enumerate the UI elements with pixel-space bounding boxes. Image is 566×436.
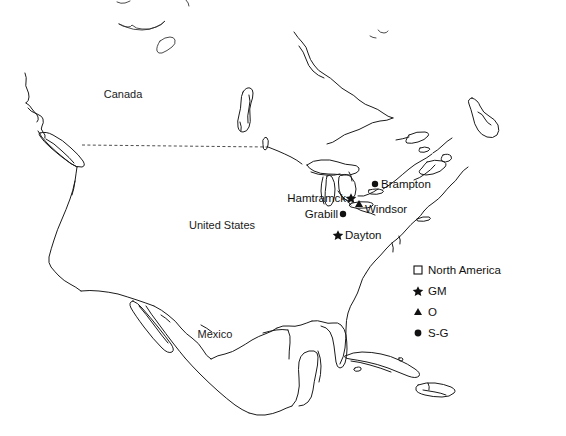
puget-sound-coast (38, 131, 77, 167)
legend-symbol-gm (413, 286, 424, 296)
city-label-hamtramck: Hamtramck (287, 192, 346, 204)
alaska-coast (25, 73, 29, 103)
vancouver-island (39, 132, 84, 167)
arctic-island-baffin-edge (370, 36, 376, 38)
city-label-dayton: Dayton (345, 229, 381, 241)
mexico-gulf-coast (263, 330, 288, 334)
bahamas-small (399, 358, 403, 361)
city-label-brampton: Brampton (381, 178, 431, 190)
mexico-pacific-coast (185, 358, 249, 413)
ontario-peninsula-south (358, 189, 378, 196)
cuba (345, 352, 420, 378)
florida-atlantic-side (340, 273, 366, 364)
legend-symbol-s-g (415, 330, 422, 337)
region-label-canada: Canada (104, 88, 143, 100)
arctic-island-victoria (119, 21, 165, 30)
legend-symbol-north-america (414, 266, 422, 274)
us-canada-east-boundary (268, 147, 302, 164)
legend-label-s-g: S-G (428, 327, 449, 339)
arctic-islands-group (117, 0, 388, 53)
legend-label-o: O (428, 306, 437, 318)
yucatan-east-coast (318, 351, 321, 382)
region-labels-group: Canada United States Mexico (104, 88, 256, 340)
hudson-bay-outline (238, 88, 253, 132)
us-mexico-border-west (81, 291, 154, 307)
arctic-island-small-left (117, 1, 130, 3)
hispaniola (416, 383, 455, 397)
labrador-hudson-strait-coast (294, 32, 393, 118)
city-marker-windsor[interactable] (355, 200, 363, 207)
bay-of-campeche (288, 330, 290, 359)
yucatan-peninsula (292, 351, 318, 406)
mexico-group (130, 301, 321, 415)
gulf-of-california-mainland (146, 306, 185, 358)
chesapeake-delaware-detail (392, 236, 400, 252)
legend-label-gm: GM (428, 285, 447, 297)
arctic-island-right-top (186, 0, 189, 6)
quebec-new-brunswick-boundary (433, 138, 452, 153)
california-southern-coast (59, 276, 81, 291)
arctic-island-banks (157, 37, 175, 53)
north-america-map-figure: Canada United States Mexico Brampton Ham… (0, 0, 566, 436)
us-atlantic-mid (397, 211, 424, 239)
city-label-windsor: Windsor (365, 203, 407, 215)
canada-us-border (82, 145, 268, 147)
map-legend: North America GM O S-G (413, 264, 502, 339)
city-marker-grabill[interactable] (340, 211, 346, 217)
hispaniola-detail (423, 383, 446, 395)
arctic-island-ellesmere (378, 30, 388, 33)
region-label-united-states: United States (189, 219, 256, 231)
anticosti-island (406, 132, 429, 144)
city-marker-brampton[interactable] (372, 181, 378, 187)
united-states-group (49, 138, 468, 368)
hudson-bay-group (238, 88, 253, 132)
legend-label-north-america: North America (428, 264, 501, 276)
region-label-mexico: Mexico (198, 328, 233, 340)
mexico-south-pacific (249, 406, 292, 415)
prince-edward-island (419, 147, 430, 152)
city-marker-dayton[interactable] (333, 230, 344, 240)
newfoundland (468, 98, 498, 138)
city-label-grabill: Grabill (305, 208, 338, 220)
newfoundland-inner-detail (478, 112, 491, 125)
james-bay (240, 122, 241, 131)
maine-coast (451, 167, 468, 185)
isla-juventud (354, 367, 362, 371)
baja-california (130, 301, 173, 353)
alaska-pacific-group (25, 73, 84, 195)
vancouver-island-inner (46, 139, 74, 163)
legend-symbol-o (414, 308, 422, 315)
eastern-canada-group (294, 32, 499, 175)
us-west-coast (49, 181, 75, 276)
map-canvas: Canada United States Mexico Brampton Ham… (0, 0, 566, 436)
caribbean-group (345, 352, 455, 397)
gulf-coast-mississippi-alabama (277, 321, 312, 328)
gulf-st-lawrence-coast (327, 118, 393, 144)
lake-winnipeg (263, 137, 268, 150)
